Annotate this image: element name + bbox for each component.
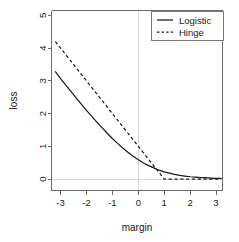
loss-functions-plot: -3-2-10123012345 marginloss LogisticHing…: [0, 0, 239, 242]
y-axis-tick-label: 4: [37, 45, 48, 50]
y-axis-tick-label: 5: [37, 13, 48, 18]
axis-tick-labels: -3-2-10123012345: [37, 13, 219, 208]
x-axis-tick-label: -1: [108, 197, 116, 208]
legend-label-hinge: Hinge: [179, 27, 204, 38]
legend-label-logistic: Logistic: [179, 15, 211, 26]
x-axis-tick-label: 0: [136, 197, 141, 208]
x-axis-tick-label: -3: [56, 197, 64, 208]
axis-ticks: [48, 15, 217, 194]
chart-container: -3-2-10123012345 marginloss LogisticHing…: [0, 0, 239, 242]
x-axis-title: margin: [122, 222, 153, 233]
y-axis-tick-label: 3: [37, 78, 48, 83]
x-axis-tick-label: 1: [162, 197, 167, 208]
y-axis-tick-label: 1: [37, 144, 48, 149]
y-axis-title: loss: [8, 92, 19, 110]
axis-titles: marginloss: [8, 92, 153, 233]
y-axis-tick-label: 2: [37, 111, 48, 116]
x-axis-tick-label: 2: [187, 197, 192, 208]
chart-legend: LogisticHinge: [151, 11, 223, 40]
y-axis-tick-label: 0: [37, 176, 48, 181]
x-axis-tick-label: -2: [82, 197, 90, 208]
x-axis-tick-label: 3: [213, 197, 218, 208]
